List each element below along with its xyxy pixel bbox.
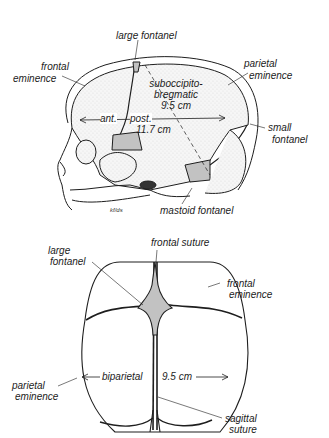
superior-skull-view	[58, 250, 248, 432]
label-frontal-eminence-line2: eminence	[13, 73, 56, 84]
label-large-fontanel-line2: fontanel	[50, 256, 86, 267]
label-parietal-eminence-line2: eminence	[249, 70, 292, 81]
label-parietal-eminence-line1: parietal	[12, 380, 45, 391]
label-parietal-eminence-line2: eminence	[15, 391, 58, 402]
label-ant: ant.	[100, 113, 117, 124]
label-frontal-eminence-line2: eminence	[229, 289, 272, 300]
label-large-fontanel-line1: large	[48, 245, 70, 256]
label-frontal-suture: frontal suture	[151, 237, 209, 248]
label-mastoid-fontanel: mastoid fontanel	[160, 205, 233, 216]
label-biparietal: biparietal	[102, 371, 143, 382]
label-biparietal-value: 9.5 cm	[162, 371, 192, 382]
label-sagittal-suture-line2: suture	[229, 424, 257, 435]
artist-signature: kf/ds	[110, 207, 123, 213]
label-ant-post-value: 11.7 cm	[136, 124, 171, 135]
label-frontal-eminence-line1: frontal	[227, 278, 255, 289]
label-sagittal-suture-line1: sagittal	[225, 413, 257, 424]
label-suboccipitobregmatic-line2: bregmatic	[140, 89, 212, 100]
label-parietal-eminence-line1: parietal	[244, 58, 277, 69]
label-large-fontanel: large fontanel	[116, 30, 177, 41]
label-frontal-eminence-line1: frontal	[30, 61, 80, 72]
label-suboccipitobregmatic-value: 9.5 cm	[140, 100, 212, 111]
label-suboccipitobregmatic-line1: suboccipito-	[140, 78, 212, 89]
label-small-fontanel-line1: small	[268, 122, 291, 133]
label-post: post.	[130, 113, 152, 124]
label-small-fontanel-line2: fontanel	[272, 134, 308, 145]
